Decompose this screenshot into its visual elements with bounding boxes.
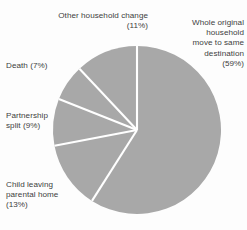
slice-label-child-leaving-parental-home: Child leaving parental home (13%)	[6, 180, 90, 211]
slice-label-other-household-change: Other household change (11%)	[16, 11, 148, 31]
pie-chart-figure: Other household change (11%) Whole origi…	[0, 0, 247, 230]
slice-label-whole-original-household: Whole original household move to same de…	[170, 18, 244, 69]
slice-label-partnership-split: Partnership split (9%)	[6, 111, 86, 131]
slice-label-death: Death (7%)	[6, 61, 84, 71]
